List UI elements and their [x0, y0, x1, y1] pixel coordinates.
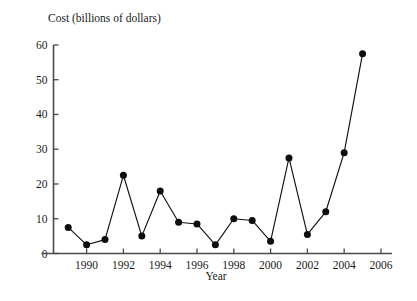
y-axis-tick-label: 40	[36, 108, 48, 120]
y-axis-tick-label: 60	[36, 39, 48, 51]
x-axis-tick-label: 2004	[333, 259, 356, 271]
data-point-marker: 1994: 18	[157, 187, 164, 194]
data-point-marker: 1998: 10	[230, 215, 237, 222]
data-point-marker: 1990: 2.5	[83, 241, 90, 248]
data-point-marker: 2004: 29	[341, 149, 348, 156]
data-series-cost: 1989: 7.51990: 2.51991: 41992: 22.51993:…	[65, 50, 366, 248]
y-axis-tick-label: 20	[36, 178, 48, 190]
x-axis-tick-label: 2000	[259, 259, 282, 271]
data-point-marker: 1999: 9.5	[249, 217, 256, 224]
x-axis-tick-label: 1992	[112, 259, 135, 271]
data-point-marker: 2005: 57.5	[359, 50, 366, 57]
y-axis-title: Cost (billions of dollars)	[48, 12, 161, 25]
series-line-cost	[68, 54, 362, 245]
y-axis-tick-label: 10	[36, 213, 48, 225]
y-axis: 0102030405060	[36, 39, 59, 260]
line-chart: 0102030405060 19901992199419961998200020…	[0, 0, 417, 301]
x-axis: 199019921994199619982000200220042006	[42, 249, 393, 271]
data-point-marker: 2001: 27.5	[285, 154, 292, 161]
data-point-marker: 2002: 5.5	[304, 231, 311, 238]
data-point-marker: 1996: 8.5	[193, 220, 200, 227]
data-point-marker: 2000: 3.5	[267, 238, 274, 245]
x-axis-tick-label: 1998	[222, 259, 245, 271]
data-point-marker: 1995: 9	[175, 219, 182, 226]
x-axis-title: Year	[205, 270, 226, 282]
data-point-marker: 2003: 12	[322, 208, 329, 215]
data-point-marker: 1993: 5	[138, 233, 145, 240]
y-axis-tick-label: 50	[36, 74, 48, 86]
x-axis-tick-label: 1990	[75, 259, 98, 271]
data-point-marker: 1989: 7.5	[65, 224, 72, 231]
x-axis-tick-label: 1994	[149, 259, 172, 271]
x-axis-tick-label: 2006	[369, 259, 392, 271]
data-point-marker: 1997: 2.5	[212, 241, 219, 248]
x-axis-tick-label: 2002	[296, 259, 319, 271]
data-point-marker: 1991: 4	[102, 236, 109, 243]
chart-container: 0102030405060 19901992199419961998200020…	[0, 0, 417, 301]
x-axis-tick-label: 1996	[185, 259, 208, 271]
data-point-marker: 1992: 22.5	[120, 172, 127, 179]
y-axis-tick-label: 30	[36, 143, 48, 155]
